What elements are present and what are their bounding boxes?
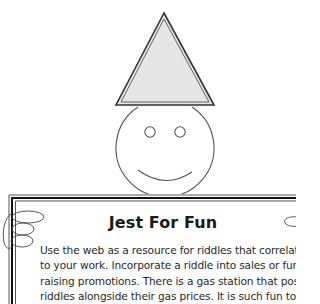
smiley-face-icon (116, 107, 214, 197)
body-line: to your work. Incorporate a riddle into … (40, 258, 296, 273)
body-line: riddles alongside their gas prices. It i… (40, 289, 296, 304)
body-line: raising promotions. There is a gas stati… (40, 274, 296, 289)
panel-title: Jest For Fun (30, 213, 296, 232)
party-hat-icon (116, 13, 214, 105)
panel-body-text: Use the web as a resource for riddles th… (40, 243, 296, 304)
body-line: Use the web as a resource for riddles th… (40, 243, 296, 258)
